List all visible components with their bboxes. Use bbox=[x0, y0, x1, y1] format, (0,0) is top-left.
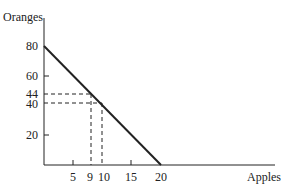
y-axis-label: Oranges bbox=[3, 10, 43, 24]
y-tick-label-20: 20 bbox=[26, 128, 38, 142]
chart: Oranges Apples 80 60 44 40 20 5 9 10 15 … bbox=[0, 0, 281, 188]
x-axis-label: Apples bbox=[247, 170, 281, 184]
x-tick-label-20: 20 bbox=[155, 170, 167, 184]
x-tick-label-9: 9 bbox=[87, 170, 93, 184]
x-tick-label-10: 10 bbox=[98, 170, 110, 184]
y-tick-label-40: 40 bbox=[26, 97, 38, 111]
y-tick-label-80: 80 bbox=[26, 39, 38, 53]
y-tick-label-60: 60 bbox=[26, 69, 38, 83]
x-tick-label-15: 15 bbox=[125, 170, 137, 184]
dashed-guides bbox=[44, 94, 102, 165]
x-tick-label-5: 5 bbox=[70, 170, 76, 184]
